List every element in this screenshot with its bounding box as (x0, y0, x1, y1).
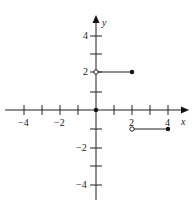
segment-1-closed-endpoint (130, 70, 134, 74)
x-axis-label: x (180, 116, 186, 127)
x-tick-label-neg2: −2 (54, 117, 65, 128)
x-tick-label-neg4: −4 (18, 117, 29, 128)
y-tick-label-2: 2 (83, 66, 88, 77)
piecewise-function-graph: −4 −2 2 4 4 2 −2 −4 x y (0, 0, 196, 210)
y-tick-label-neg2: −2 (76, 142, 87, 153)
segment-1-open-endpoint (94, 70, 98, 74)
y-tick-label-4: 4 (83, 30, 88, 41)
x-axis-arrow-icon (181, 107, 189, 114)
x-tick-label-4: 4 (165, 117, 170, 128)
y-tick-label-neg4: −4 (76, 179, 87, 190)
y-axis-arrow-icon (93, 15, 100, 23)
segment-2-open-endpoint (130, 127, 134, 131)
origin-closed-point (94, 108, 98, 112)
segment-2-closed-endpoint (166, 127, 170, 131)
y-axis-label: y (101, 17, 107, 28)
